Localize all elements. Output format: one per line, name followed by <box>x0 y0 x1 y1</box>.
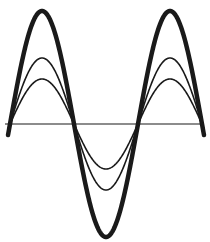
sine-wave-diagram <box>0 0 210 242</box>
